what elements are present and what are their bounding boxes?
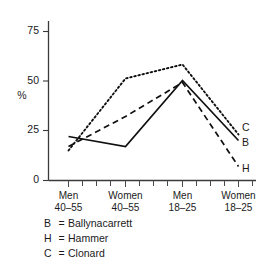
legend-name-hammer: Hammer: [68, 231, 108, 246]
x-label-3-bottom: 18–25: [169, 202, 197, 213]
legend-equals-h: =: [55, 231, 68, 246]
series-line-hammer: [69, 83, 239, 167]
endpoint-label-c: C: [242, 121, 250, 133]
series-line-ballynacarrett: [69, 81, 239, 147]
y-tick-label-25: 25: [27, 123, 39, 135]
legend-name-clonard: Clonard: [68, 246, 105, 261]
x-label-2-bottom: 40–55: [112, 202, 140, 213]
legend-item-hammer: H = Hammer: [44, 231, 259, 246]
endpoint-label-h: H: [242, 162, 250, 174]
endpoint-label-b: B: [242, 136, 249, 148]
legend-equals-c: =: [55, 246, 68, 261]
x-label-4-top: Women: [221, 190, 255, 201]
y-axis-title: %: [17, 89, 26, 101]
x-label-1-top: Men: [59, 190, 78, 201]
y-axis-ticks: [43, 32, 49, 181]
legend-item-clonard: C = Clonard: [44, 246, 259, 261]
y-tick-label-50: 50: [27, 74, 39, 86]
x-label-4-bottom: 18–25: [225, 202, 253, 213]
legend-key-c: C: [44, 246, 55, 261]
x-axis-ticks: [69, 181, 253, 188]
legend-item-ballynacarrett: B = Ballynacarrett: [44, 216, 259, 231]
chart-legend: B = Ballynacarrett H = Hammer C = Clonar…: [44, 216, 259, 261]
chart-figure: 75 50 25 0 % C B: [0, 0, 263, 267]
y-tick-label-0: 0: [33, 173, 39, 185]
y-tick-label-75: 75: [27, 24, 39, 36]
legend-key-b: B: [44, 216, 55, 231]
legend-name-ballynacarrett: Ballynacarrett: [68, 216, 132, 231]
legend-key-h: H: [44, 231, 55, 246]
x-label-3-top: Men: [173, 190, 192, 201]
x-label-2-top: Women: [108, 190, 142, 201]
series-line-clonard: [69, 65, 239, 151]
legend-equals-b: =: [55, 216, 68, 231]
x-label-1-bottom: 40–55: [55, 202, 83, 213]
